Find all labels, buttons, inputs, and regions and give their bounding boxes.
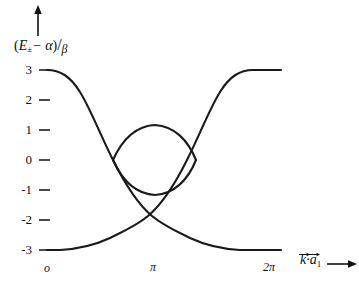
y-tick-label-1: 1 (6, 122, 32, 138)
y-tick-label-neg-1: -1 (4, 182, 32, 198)
y-axis-label: (E±− α)/β (14, 36, 68, 57)
y-tick-label-neg-2: -2 (4, 212, 32, 228)
x-tick-label-pi: π (142, 260, 164, 275)
x-tick-label-2pi: 2π (255, 260, 283, 275)
y-tick-label-0: 0 (6, 152, 32, 168)
y-tick-label-neg-3: -3 (4, 242, 32, 258)
x-label-vector-a: a (310, 252, 317, 268)
y-label-beta: β (62, 42, 68, 56)
x-label-a-subscript: 1 (317, 259, 322, 269)
y-axis-ticks (39, 70, 50, 250)
x-axis-label: k· a1 (300, 252, 321, 269)
y-tick-label-3: 3 (6, 62, 32, 78)
y-label-symbol-E: E (19, 38, 28, 53)
x-axis-arrow-icon (327, 260, 357, 267)
x-label-vector-k: k (300, 252, 306, 268)
curve-upper-lens-arc (113, 125, 196, 160)
y-label-minus-alpha: − α (32, 38, 52, 53)
y-axis-arrow-icon (34, 5, 42, 36)
curve-descending-branch (47, 70, 281, 250)
y-tick-label-2: 2 (6, 92, 32, 108)
vector-arrow-icon-a (309, 245, 320, 251)
x-tick-label-origin: o (34, 261, 60, 276)
